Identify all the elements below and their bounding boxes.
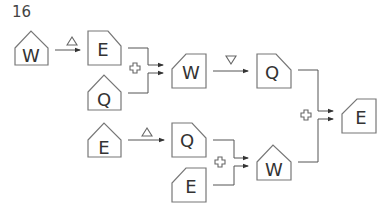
node-w-house: W — [257, 145, 291, 180]
node-label: E — [355, 107, 366, 128]
operator-triangle-up — [142, 128, 152, 136]
node-w-house-start: W — [15, 31, 48, 66]
node-label: E — [97, 39, 108, 60]
connector — [128, 73, 148, 93]
connector — [128, 48, 148, 65]
operator-plus — [130, 63, 140, 73]
operator-plus — [215, 157, 225, 167]
flow-diagram: W E Q W Q E — [0, 0, 385, 211]
node-label: Q — [97, 89, 111, 110]
operator-triangle-up — [67, 37, 77, 45]
node-label: W — [265, 159, 283, 180]
node-e-house: E — [88, 123, 121, 158]
node-label: W — [22, 45, 40, 66]
connector — [213, 140, 234, 158]
node-e-clipped: E — [88, 31, 121, 65]
connector — [213, 166, 234, 185]
node-e-result: E — [342, 99, 376, 133]
node-label: E — [185, 176, 196, 197]
node-w-clipped: W — [172, 54, 206, 88]
connector — [298, 119, 318, 162]
operator-triangle-down — [226, 56, 236, 64]
node-q-house: Q — [88, 75, 121, 110]
node-e-clipped-lower: E — [172, 168, 206, 202]
node-q-clipped: Q — [257, 54, 291, 88]
node-label: Q — [180, 130, 194, 151]
node-q-clipped-lower: Q — [172, 123, 206, 157]
node-label: E — [98, 137, 109, 158]
connector — [298, 70, 318, 111]
node-label: W — [182, 62, 200, 83]
operator-plus — [301, 110, 311, 120]
node-label: Q — [265, 62, 279, 83]
